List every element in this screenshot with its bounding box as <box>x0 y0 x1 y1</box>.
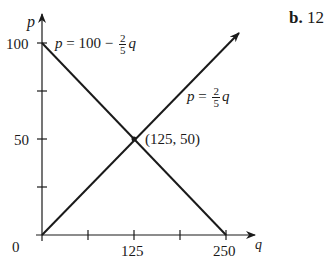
demand-lhs: p <box>55 35 63 51</box>
x-tick-label-250: 250 <box>213 244 236 259</box>
supply-equation-label: p = 25q <box>187 86 229 109</box>
y-axis-label: p <box>27 14 35 30</box>
intersection-point <box>132 137 137 142</box>
x-axis-label: q <box>255 238 262 252</box>
demand-fraction: 25 <box>119 33 127 56</box>
demand-eq: = 100 − <box>63 35 117 51</box>
part-letter: b. <box>289 8 303 27</box>
part-text: 12 <box>307 8 324 27</box>
supply-var: q <box>222 88 230 104</box>
demand-var: q <box>128 35 136 51</box>
supply-line <box>42 33 239 235</box>
x-tick-label-125: 125 <box>121 244 144 259</box>
supply-lhs: p <box>187 88 195 104</box>
origin-label: 0 <box>12 240 20 255</box>
supply-fraction: 25 <box>212 86 220 109</box>
y-tick-label-50: 50 <box>14 133 29 148</box>
supply-eq: = <box>195 88 211 104</box>
intersection-label: (125, 50) <box>145 132 200 147</box>
fraction-denominator: 5 <box>119 45 127 56</box>
y-tick-label-100: 100 <box>6 37 29 52</box>
part-label: b. 12 <box>289 8 324 28</box>
fraction-denominator: 5 <box>212 98 220 109</box>
demand-equation-label: p = 100 − 25q <box>55 33 136 56</box>
